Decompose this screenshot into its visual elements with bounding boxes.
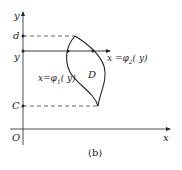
intersection-dot-left [67,50,70,53]
origin-label: O [12,133,20,143]
x-axis-label: x [163,133,169,143]
diagram-figure: y d y C O x x =φ2( y) x=φ1( y) D (b) [0,0,182,170]
tick-dot-y [22,50,25,53]
y-axis-label: y [14,11,20,21]
tick-label-d: d [13,31,19,41]
tick-label-c: C [12,101,20,111]
tick-dot-c [22,105,25,108]
tick-label-y: y [14,52,20,62]
tick-dot-d [22,35,25,38]
diagram-graphics [0,0,182,170]
region-label: D [88,70,96,80]
right-curve-label: x =φ2( y) [107,54,148,65]
figure-caption: (b) [88,148,102,158]
intersection-dot-right [92,50,95,53]
left-curve-label: x=φ1( y) [38,74,76,85]
